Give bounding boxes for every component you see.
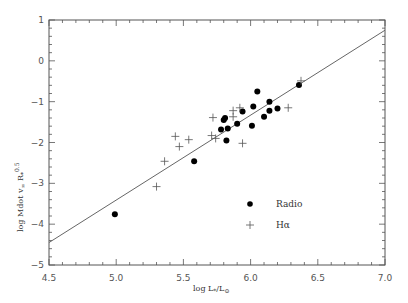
x-tick-label: 4.5 xyxy=(42,273,56,283)
series-halpha xyxy=(153,77,305,191)
radio-point xyxy=(234,121,240,127)
x-tick-label: 5.0 xyxy=(109,273,124,283)
radio-point xyxy=(250,104,256,110)
radio-point xyxy=(266,108,272,114)
radio-point xyxy=(191,158,197,164)
y-tick-label: −4 xyxy=(31,219,45,229)
radio-point xyxy=(240,108,246,114)
halpha-point xyxy=(229,113,237,121)
tick-labels: 4.55.05.56.06.57.0−5−4−3−2−101 xyxy=(31,15,393,283)
x-tick-label: 6.0 xyxy=(243,273,258,283)
y-tick-label: −1 xyxy=(31,97,44,107)
x-tick-label: 5.5 xyxy=(176,273,190,283)
halpha-point xyxy=(171,132,179,140)
y-axis-label: log Mdot v∞ R*0.5 xyxy=(13,162,26,232)
radio-point xyxy=(223,137,229,143)
y-tick-label: 0 xyxy=(38,56,44,66)
halpha-point xyxy=(161,157,169,165)
x-tick-label: 6.5 xyxy=(311,273,325,283)
legend-halpha-label: Hα xyxy=(276,220,290,230)
radio-point xyxy=(266,99,272,105)
axes-frame xyxy=(49,20,385,265)
scatter-chart: 4.55.05.56.06.57.0−5−4−3−2−101 Radio Hα … xyxy=(0,0,408,303)
y-tick-label: −2 xyxy=(31,138,44,148)
legend-halpha-marker xyxy=(246,221,254,229)
x-tick-label: 7.0 xyxy=(378,273,393,283)
radio-point xyxy=(222,115,228,121)
radio-point xyxy=(225,126,231,132)
y-tick-label: 1 xyxy=(38,15,44,25)
radio-point xyxy=(261,114,267,120)
series-radio xyxy=(112,82,302,217)
legend: Radio Hα xyxy=(246,199,302,230)
plot-frame xyxy=(49,20,385,265)
halpha-point xyxy=(175,143,183,151)
legend-radio-label: Radio xyxy=(276,199,302,209)
halpha-point xyxy=(185,136,193,144)
radio-point xyxy=(218,126,224,132)
y-tick-label: −5 xyxy=(31,260,44,270)
halpha-point xyxy=(153,183,161,191)
radio-point xyxy=(112,211,118,217)
axis-ticks xyxy=(49,20,385,265)
halpha-point xyxy=(284,104,292,112)
fit-line xyxy=(49,30,385,242)
legend-radio-marker xyxy=(247,201,253,207)
halpha-point xyxy=(239,139,247,147)
halpha-point xyxy=(209,114,217,122)
x-axis-label: log L*/L⊙ xyxy=(193,284,229,294)
radio-point xyxy=(274,106,280,112)
y-tick-label: −3 xyxy=(31,178,44,188)
radio-point xyxy=(249,123,255,129)
radio-point xyxy=(254,88,260,94)
